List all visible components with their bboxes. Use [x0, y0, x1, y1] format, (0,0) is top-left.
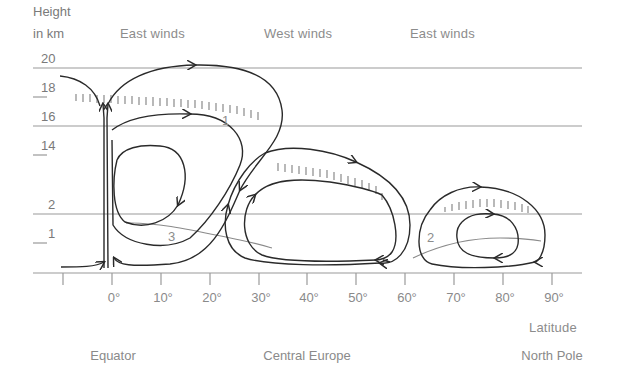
polar-cell [419, 187, 545, 268]
ferrel-cell [225, 148, 410, 265]
wind-zone-east-2: East winds [410, 26, 475, 41]
x-tick-40: 40° [299, 290, 319, 305]
region-equator: Equator [90, 348, 136, 363]
y-axis-title-line1: Height [33, 4, 71, 19]
x-tick-30: 30° [251, 290, 271, 305]
y-tick-18: 18 [41, 80, 55, 95]
x-axis-label: Latitude [529, 320, 577, 335]
cell-label-1: 1 [222, 113, 229, 128]
tropopause-hatch-3 [445, 199, 528, 213]
wind-zone-west: West winds [264, 26, 332, 41]
cell-label-2: 2 [427, 230, 434, 245]
x-tick-90: 90° [544, 290, 564, 305]
region-north-pole: North Pole [521, 348, 582, 363]
x-tick-80: 80° [495, 290, 515, 305]
y-tick-14: 14 [41, 138, 55, 153]
y-tick-20: 20 [41, 51, 55, 66]
x-tick-70: 70° [446, 290, 466, 305]
y-tick-1: 1 [48, 226, 55, 241]
x-tick-50: 50° [348, 290, 368, 305]
y-tick-16: 16 [41, 109, 55, 124]
wind-zone-east-1: East winds [120, 26, 185, 41]
x-tick-0: 0° [108, 290, 120, 305]
cell-label-3: 3 [168, 229, 175, 244]
region-central-europe: Central Europe [263, 348, 350, 363]
y-axis-title-line2: in km [33, 26, 64, 41]
x-tick-20: 20° [202, 290, 222, 305]
circulation-diagram [0, 0, 620, 379]
x-tick-60: 60° [397, 290, 417, 305]
x-tick-10: 10° [153, 290, 173, 305]
y-tick-2: 2 [48, 197, 55, 212]
gradient-lines [126, 223, 541, 258]
x-ticks [63, 273, 552, 285]
